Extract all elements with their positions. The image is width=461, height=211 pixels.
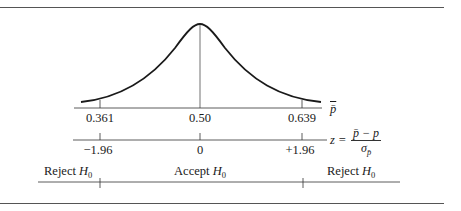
reject-right-label: Reject H0	[327, 165, 375, 180]
pbar-tick-right: 0.639	[288, 112, 316, 125]
z-formula-fraction: p̄ − p σp̄	[351, 127, 381, 157]
z-tick-center: 0	[197, 144, 203, 157]
pbar-tick-center: 0.50	[189, 112, 211, 125]
reject-left-label: Reject H0	[44, 165, 92, 180]
accept-label: Accept H0	[174, 165, 226, 180]
normal-curve	[81, 24, 321, 102]
z-formula-denominator: σp̄	[361, 141, 371, 157]
z-tick-right: +1.96	[286, 144, 315, 157]
z-formula-lhs: z =	[330, 134, 346, 147]
z-formula-numerator: p̄ − p	[351, 127, 381, 141]
pbar-tick-left: 0.361	[86, 112, 114, 125]
pbar-axis-symbol: p̄	[330, 103, 336, 116]
z-tick-left: −1.96	[84, 144, 113, 157]
